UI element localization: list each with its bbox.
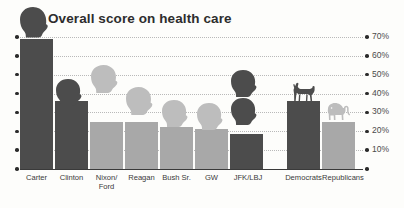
left-tick-40 — [15, 92, 19, 96]
ytick-label-10: 10% — [372, 144, 389, 154]
page-title: Overall score on health care — [48, 11, 232, 26]
donkey-icon — [292, 82, 318, 102]
right-tick-70 — [365, 35, 369, 39]
head-silhouette-jfk — [229, 70, 258, 97]
ytick-label-20: 20% — [372, 125, 389, 135]
ytick-label-60: 60% — [372, 50, 389, 60]
bar-republicans[interactable] — [322, 122, 355, 169]
head-silhouette-clinton — [54, 79, 83, 106]
left-tick-50 — [15, 73, 19, 77]
head-silhouette-bush-sr — [160, 100, 189, 127]
health-care-score-chart: Overall score on health care 70% 60% 50%… — [0, 0, 404, 208]
bar-reagan[interactable] — [125, 122, 158, 169]
ytick-label-30: 30% — [372, 106, 389, 116]
elephant-icon — [326, 102, 353, 121]
ytick-label-50: 50% — [372, 69, 389, 79]
left-tick-30 — [15, 111, 19, 115]
plot-area: 70% 60% 50% 40% 30% 20% 10% — [20, 37, 363, 169]
bar-bush-sr[interactable] — [160, 127, 193, 169]
head-silhouette-lbj — [229, 98, 258, 125]
bar-jfk-lbj[interactable] — [230, 134, 263, 169]
bar-gw[interactable] — [195, 129, 228, 169]
head-silhouette-carter — [18, 7, 48, 38]
left-tick-0 — [15, 167, 19, 171]
left-tick-60 — [15, 54, 19, 58]
axis-baseline — [20, 169, 363, 170]
ytick-label-40: 40% — [372, 88, 389, 98]
bar-nixon-ford[interactable] — [90, 122, 123, 169]
head-silhouette-reagan — [124, 87, 154, 115]
xtick-label-carter: Carter — [20, 173, 53, 182]
head-silhouette-gw — [195, 103, 224, 130]
right-tick-40 — [365, 92, 369, 96]
left-tick-20 — [15, 130, 19, 134]
xtick-label-reagan: Reagan — [125, 173, 158, 182]
left-tick-10 — [15, 148, 19, 152]
head-silhouette-nixon-ford — [89, 65, 119, 93]
ytick-label-70: 70% — [372, 31, 389, 41]
right-tick-10 — [365, 148, 369, 152]
right-tick-20 — [365, 130, 369, 134]
gridline-50 — [20, 75, 363, 76]
xtick-label-gw: GW — [195, 173, 228, 182]
xtick-label-nixon-ford: Nixon/ Ford — [90, 173, 123, 191]
xtick-label-bush-sr: Bush Sr. — [160, 173, 193, 182]
bar-clinton[interactable] — [55, 101, 88, 169]
right-tick-30 — [365, 111, 369, 115]
bar-democrats[interactable] — [287, 101, 320, 169]
right-tick-50 — [365, 73, 369, 77]
xtick-label-jfk-lbj: JFK/LBJ — [228, 173, 268, 182]
right-tick-60 — [365, 54, 369, 58]
xtick-label-clinton: Clinton — [55, 173, 88, 182]
gridline-60 — [20, 56, 363, 57]
gridline-70 — [20, 37, 363, 38]
right-tick-0 — [365, 167, 369, 171]
bar-carter[interactable] — [20, 39, 53, 169]
xtick-label-republicans: Republicans — [318, 173, 368, 182]
